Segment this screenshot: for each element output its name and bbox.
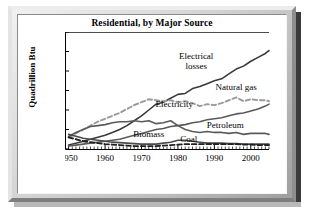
series-label-electrical-losses: Electrical (179, 51, 214, 61)
chart-title: Residential, by Major Source (18, 18, 286, 28)
series-label-natural-gas: Natural gas (216, 82, 258, 92)
y-axis-label: Quadrillion Btu (27, 37, 37, 117)
frame-drop-shadow-right (296, 12, 301, 206)
series-annotations: ElectricallossesNatural gasElectricityPe… (133, 51, 257, 144)
series-label-coal: Coal (180, 134, 197, 144)
x-tick-labels: 195019601970198019902000 (65, 145, 269, 163)
svg-text:1970: 1970 (133, 153, 152, 163)
svg-text:1980: 1980 (169, 153, 188, 163)
svg-text:1990: 1990 (205, 153, 224, 163)
series-label-petroleum: Petroleum (207, 120, 244, 130)
series-line-electrical-losses (69, 51, 269, 146)
line-chart-svg: 024681012 195019601970198019902000 Elect… (65, 32, 271, 163)
svg-text:2000: 2000 (242, 153, 260, 163)
frame-drop-shadow-bottom (14, 202, 301, 207)
picture-frame: Residential, by Major Source Quadrillion… (8, 6, 296, 202)
series-label-electricity: Electricity (156, 99, 194, 109)
series-label-electrical-losses: losses (185, 61, 207, 71)
svg-text:1960: 1960 (96, 153, 115, 163)
svg-text:1950: 1950 (65, 153, 78, 163)
plot-area: 024681012 195019601970198019902000 Elect… (65, 32, 271, 163)
chart-panel: Residential, by Major Source Quadrillion… (17, 14, 287, 194)
series-label-biomass: Biomass (133, 129, 165, 139)
